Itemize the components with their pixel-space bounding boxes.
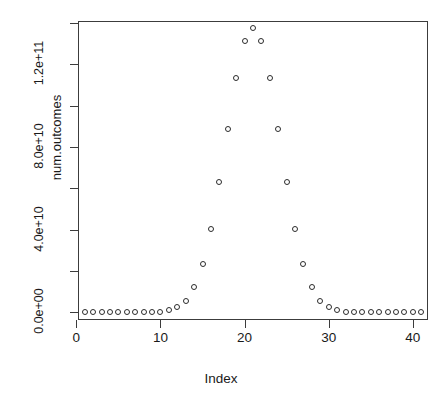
plot-frame bbox=[78, 21, 428, 320]
y-axis-tick-label: 1.2e+11 bbox=[32, 32, 46, 94]
x-axis-tick-label: 30 bbox=[321, 330, 336, 345]
x-axis-title: Index bbox=[0, 371, 442, 386]
y-axis-tick bbox=[70, 147, 78, 148]
x-axis-tick-label: 40 bbox=[405, 330, 420, 345]
y-axis-tick-label: 4.0e+10 bbox=[32, 198, 46, 260]
y-axis-tick-label: 8.0e+10 bbox=[32, 115, 46, 177]
x-axis-tick-label: 0 bbox=[73, 330, 81, 345]
x-axis-tick bbox=[245, 320, 246, 328]
x-axis-tick bbox=[160, 320, 161, 328]
y-axis-tick bbox=[70, 271, 78, 272]
y-axis-tick bbox=[70, 106, 78, 107]
y-axis-tick bbox=[70, 188, 78, 189]
x-axis-tick-label: 20 bbox=[237, 330, 252, 345]
y-axis-tick bbox=[70, 64, 78, 65]
y-axis-tick bbox=[70, 23, 78, 24]
x-axis-tick-label: 10 bbox=[153, 330, 168, 345]
scatter-plot-figure: num.outcomes 0.0e+004.0e+108.0e+101.2e+1… bbox=[0, 0, 442, 403]
x-axis-tick bbox=[329, 320, 330, 328]
y-axis-tick bbox=[70, 312, 78, 313]
x-axis-tick bbox=[76, 320, 77, 328]
y-axis-tick bbox=[70, 230, 78, 231]
y-axis-tick-label: 0.0e+00 bbox=[32, 280, 46, 342]
x-axis-tick bbox=[413, 320, 414, 328]
y-axis-title: num.outcomes bbox=[49, 95, 64, 180]
